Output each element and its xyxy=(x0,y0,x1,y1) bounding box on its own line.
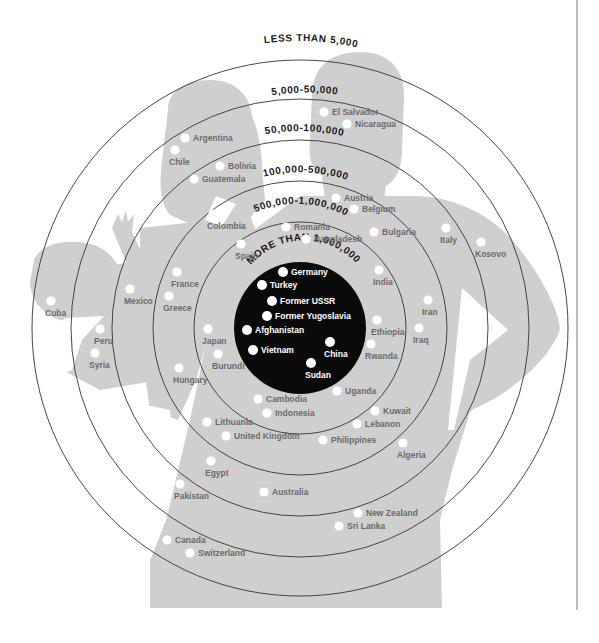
country-dot-icon xyxy=(332,386,341,395)
country-dot-icon xyxy=(334,521,343,530)
country-dot-icon xyxy=(366,339,375,348)
country-label: Switzerland xyxy=(198,548,245,558)
country-dot-icon xyxy=(369,227,378,236)
country-dot-icon xyxy=(476,237,485,246)
country-label: France xyxy=(171,279,199,289)
country-label: Mexico xyxy=(124,296,153,306)
country-label: El Salvador xyxy=(332,107,379,117)
country-vietnam: Vietnam xyxy=(248,345,294,355)
country-dot-icon xyxy=(203,324,212,333)
country-dot-icon xyxy=(319,107,328,116)
country-label: Canada xyxy=(175,535,206,545)
country-dot-icon xyxy=(325,337,335,347)
country-label: Colombia xyxy=(207,221,246,231)
country-dot-icon xyxy=(125,284,134,293)
country-label: Cuba xyxy=(45,308,67,318)
country-dot-icon xyxy=(46,296,55,305)
country-label: Former USSR xyxy=(280,296,335,306)
country-dot-icon xyxy=(441,223,450,232)
country-dot-icon xyxy=(221,431,230,440)
country-label: Indonesia xyxy=(275,408,315,418)
country-label: Kuwait xyxy=(383,406,411,416)
country-label: China xyxy=(324,349,348,359)
country-dot-icon xyxy=(162,535,171,544)
country-label: Cambodia xyxy=(266,394,307,404)
country-dot-icon xyxy=(423,295,432,304)
country-label: Romania xyxy=(294,222,330,232)
country-label: Iran xyxy=(422,307,438,317)
country-dot-icon xyxy=(206,456,215,465)
country-label: Bolivia xyxy=(228,161,256,171)
country-dot-icon xyxy=(180,133,189,142)
country-label: New Zealand xyxy=(366,508,418,518)
country-label: United Kingdom xyxy=(234,431,300,441)
country-label: Uganda xyxy=(345,386,376,396)
country-dot-icon xyxy=(90,348,99,357)
country-dot-icon xyxy=(331,193,340,202)
country-label: India xyxy=(373,277,393,287)
country-label: Afghanistan xyxy=(255,325,304,335)
country-label: Greece xyxy=(163,303,192,313)
country-label: Spain xyxy=(235,251,258,261)
country-label: Iraq xyxy=(413,335,429,345)
country-label: Sudan xyxy=(305,370,331,380)
country-dot-icon xyxy=(164,291,173,300)
country-uganda: Uganda xyxy=(332,386,376,396)
country-dot-icon xyxy=(236,239,245,248)
country-bulgaria: Bulgaria xyxy=(369,227,416,237)
country-label: Turkey xyxy=(270,280,298,290)
country-belgium: Belgium xyxy=(349,204,396,214)
country-dot-icon xyxy=(248,345,258,355)
country-dot-icon xyxy=(189,174,198,183)
country-bolivia: Bolivia xyxy=(215,161,256,171)
country-dot-icon xyxy=(172,267,181,276)
country-dot-icon xyxy=(414,323,423,332)
country-label: Kosovo xyxy=(475,249,506,259)
country-label: Italy xyxy=(440,235,457,245)
country-germany: Germany xyxy=(278,267,328,277)
country-label: Sri Lanka xyxy=(347,521,386,531)
country-label: Bangladesh xyxy=(314,234,362,244)
country-austria: Austria xyxy=(331,193,373,203)
country-label: Pakistan xyxy=(174,491,209,501)
country-dot-icon xyxy=(242,325,252,335)
country-dot-icon xyxy=(301,234,310,243)
country-canada: Canada xyxy=(162,535,206,545)
country-label: Algeria xyxy=(397,450,426,460)
country-dot-icon xyxy=(374,265,383,274)
ring-label-5000-50000: 5,000-50,000 xyxy=(270,84,338,98)
country-label: Austria xyxy=(344,193,374,203)
country-label: Guatemala xyxy=(202,174,246,184)
country-dot-icon xyxy=(278,267,288,277)
country-dot-icon xyxy=(213,349,222,358)
country-label: Bulgaria xyxy=(382,227,416,237)
diagram-canvas: LESS THAN 5,000 5,000-50,000 50,000-100,… xyxy=(0,0,599,643)
refugee-rings-diagram: LESS THAN 5,000 5,000-50,000 50,000-100,… xyxy=(0,0,599,643)
country-label: Ethiopia xyxy=(371,327,405,337)
country-dot-icon xyxy=(174,363,183,372)
country-australia: Australia xyxy=(259,487,308,497)
country-dot-icon xyxy=(95,324,104,333)
country-label: Australia xyxy=(272,487,309,497)
country-dot-icon xyxy=(202,417,211,426)
country-dot-icon xyxy=(259,487,268,496)
country-dot-icon xyxy=(349,204,358,213)
country-label: Lithuania xyxy=(215,417,253,427)
country-romania: Romania xyxy=(281,222,330,232)
country-label: Japan xyxy=(202,336,227,346)
country-turkey: Turkey xyxy=(257,280,298,290)
country-former-yugoslavia: Former Yugoslavia xyxy=(262,311,351,321)
country-label: Nicaragua xyxy=(355,119,396,129)
country-label: Philippines xyxy=(331,435,377,445)
country-dot-icon xyxy=(353,508,362,517)
country-dot-icon xyxy=(170,145,179,154)
country-label: Vietnam xyxy=(261,345,294,355)
country-dot-icon xyxy=(253,394,262,403)
country-label: Hungary xyxy=(173,375,208,385)
ring-label-less-than-5000: LESS THAN 5,000 xyxy=(263,32,359,49)
country-dot-icon xyxy=(175,479,184,488)
country-dot-icon xyxy=(185,548,194,557)
country-dot-icon xyxy=(398,438,407,447)
country-label: Germany xyxy=(291,267,328,277)
country-united-kingdom: United Kingdom xyxy=(221,431,300,441)
